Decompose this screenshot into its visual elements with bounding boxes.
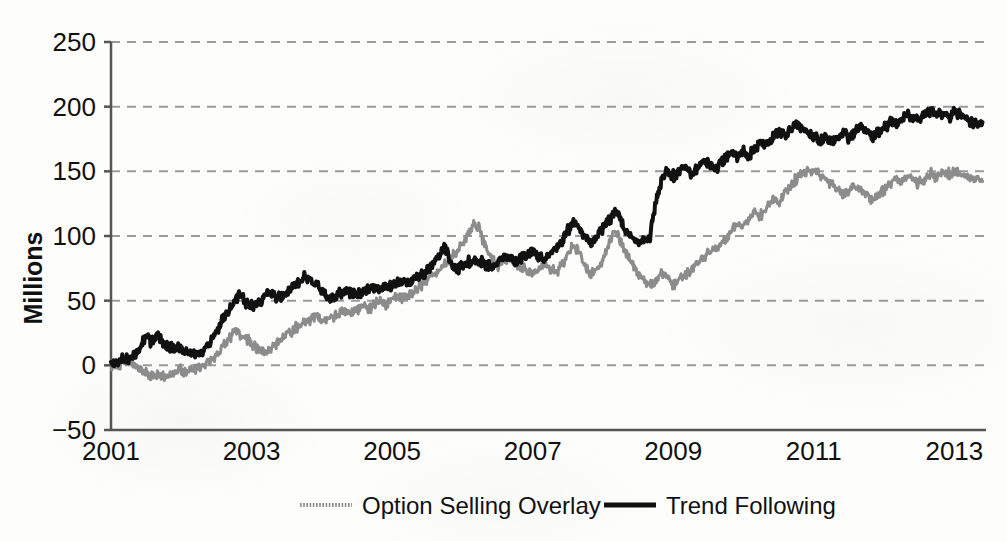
y-tick-label: 250 xyxy=(53,27,96,57)
y-tick-label: 150 xyxy=(53,156,96,186)
legend-label: Trend Following xyxy=(666,492,836,519)
y-tick-label: 100 xyxy=(53,221,96,251)
y-tick-label: 0 xyxy=(82,350,96,380)
y-tick-labels: 250200150100500−50 xyxy=(52,27,96,445)
x-tick-label: 2003 xyxy=(223,436,281,466)
legend-label: Option Selling Overlay xyxy=(362,492,601,519)
x-tick-label: 2001 xyxy=(82,436,140,466)
line-chart: 250200150100500−50 200120032005200720092… xyxy=(0,0,1007,541)
data-series-group xyxy=(111,108,982,381)
gridlines-group xyxy=(111,42,986,365)
series-line-option-selling-overlay xyxy=(111,167,982,380)
x-tick-label: 2007 xyxy=(504,436,562,466)
chart-page: 250200150100500−50 200120032005200720092… xyxy=(0,0,1007,541)
x-tick-label: 2009 xyxy=(644,436,702,466)
y-tick-label: 50 xyxy=(67,286,96,316)
x-tick-label: 2005 xyxy=(363,436,421,466)
y-tick-label: 200 xyxy=(53,92,96,122)
x-tick-label: 2011 xyxy=(786,436,842,466)
chart-legend: Option Selling OverlayTrend Following xyxy=(300,492,836,519)
x-tick-labels: 2001200320052007200920112013 xyxy=(82,436,983,466)
y-axis-title: Millions xyxy=(19,231,47,324)
x-tick-label: 2013 xyxy=(925,436,983,466)
